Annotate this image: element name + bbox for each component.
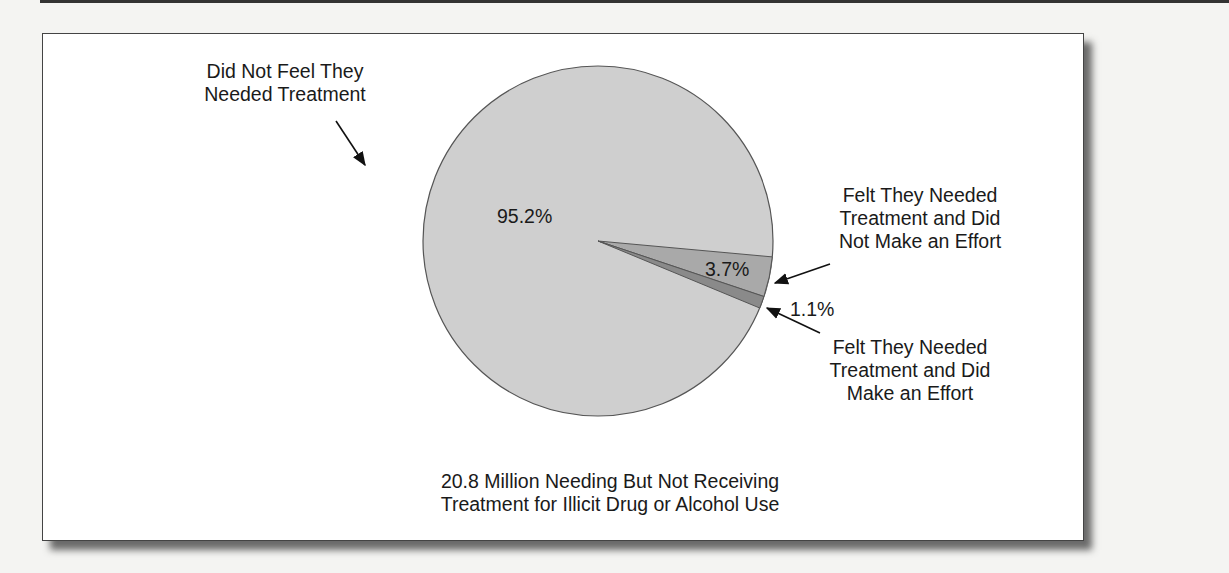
label-felt-need-no-effort: Felt They Needed Treatment and Did Not M…: [790, 184, 1050, 253]
chart-caption: 20.8 Million Needing But Not Receiving T…: [380, 470, 840, 516]
label-line: Did Not Feel They: [175, 60, 395, 83]
arrow-did-not-feel-need: [336, 121, 365, 165]
label-did-not-feel-need: Did Not Feel They Needed Treatment: [175, 60, 395, 106]
label-line: Felt They Needed: [790, 184, 1050, 207]
label-line: Not Make an Effort: [790, 230, 1050, 253]
value-label-3-7: 3.7%: [705, 258, 749, 280]
label-line: Treatment and Did: [790, 359, 1030, 382]
value-label-1-1: 1.1%: [790, 298, 834, 320]
label-line: Needed Treatment: [175, 83, 395, 106]
label-felt-need-made-effort: Felt They Needed Treatment and Did Make …: [790, 336, 1030, 405]
caption-line: Treatment for Illicit Drug or Alcohol Us…: [380, 493, 840, 516]
arrow-no-effort: [775, 264, 830, 283]
label-line: Make an Effort: [790, 382, 1030, 405]
label-line: Felt They Needed: [790, 336, 1030, 359]
label-line: Treatment and Did: [790, 207, 1050, 230]
value-label-95: 95.2%: [497, 205, 552, 227]
caption-line: 20.8 Million Needing But Not Receiving: [380, 470, 840, 493]
